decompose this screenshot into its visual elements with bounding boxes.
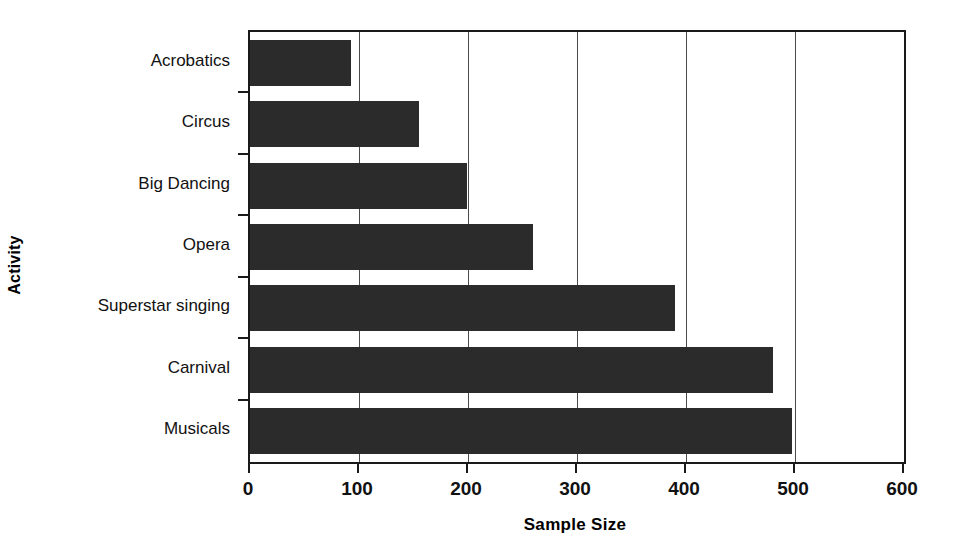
x-axis-tick bbox=[466, 462, 468, 473]
x-axis-tick bbox=[575, 462, 577, 473]
x-axis-tick bbox=[902, 462, 904, 473]
y-axis-tick bbox=[238, 276, 249, 278]
x-axis-tick-label: 100 bbox=[322, 478, 392, 500]
bar bbox=[250, 408, 792, 454]
bar bbox=[250, 285, 675, 331]
y-axis-tick-labels: AcrobaticsCircusBig DancingOperaSupersta… bbox=[28, 30, 240, 460]
gridline bbox=[795, 32, 796, 462]
bar bbox=[250, 40, 351, 86]
y-axis-tick-label: Superstar singing bbox=[98, 296, 230, 316]
y-axis-tick-label: Acrobatics bbox=[151, 51, 230, 71]
y-axis-title: Activity bbox=[6, 185, 24, 345]
bar bbox=[250, 163, 467, 209]
x-axis-tick bbox=[248, 462, 250, 473]
x-axis-tick-label: 400 bbox=[649, 478, 719, 500]
bar-chart: Activity AcrobaticsCircusBig DancingOper… bbox=[0, 0, 956, 560]
y-axis-tick bbox=[238, 337, 249, 339]
plot-inner bbox=[250, 32, 904, 462]
x-axis-tick bbox=[684, 462, 686, 473]
y-axis-tick bbox=[238, 153, 249, 155]
x-axis-tick-label: 300 bbox=[540, 478, 610, 500]
y-axis-tick-label: Opera bbox=[183, 235, 230, 255]
y-axis-tick bbox=[238, 91, 249, 93]
x-axis-tick bbox=[357, 462, 359, 473]
x-axis-tick-label: 200 bbox=[431, 478, 501, 500]
y-axis-tick-label: Musicals bbox=[164, 419, 230, 439]
x-axis-title: Sample Size bbox=[248, 515, 902, 535]
y-axis-tick-label: Circus bbox=[182, 112, 230, 132]
bar bbox=[250, 224, 533, 270]
bar bbox=[250, 101, 419, 147]
x-axis-tick bbox=[793, 462, 795, 473]
x-axis-tick-label: 500 bbox=[758, 478, 828, 500]
plot-area bbox=[248, 30, 906, 464]
y-axis-tick bbox=[238, 214, 249, 216]
x-axis-tick-label: 0 bbox=[213, 478, 283, 500]
y-axis-tick bbox=[238, 399, 249, 401]
bar bbox=[250, 347, 773, 393]
y-axis-tick-label: Carnival bbox=[168, 358, 230, 378]
y-axis-tick-label: Big Dancing bbox=[138, 174, 230, 194]
x-axis-tick-label: 600 bbox=[867, 478, 937, 500]
gridline bbox=[686, 32, 687, 462]
gridline bbox=[577, 32, 578, 462]
